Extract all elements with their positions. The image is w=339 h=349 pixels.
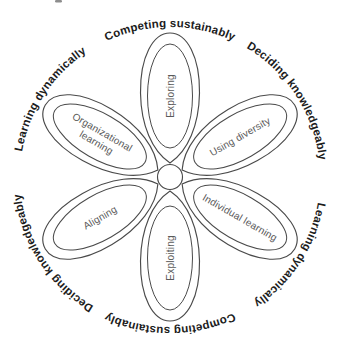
petal-label-aligning: Aligning [81, 203, 119, 231]
ring-label-competing-top: Competing sustainably [103, 17, 238, 43]
cropped-text-artifact [55, 0, 62, 2]
flower-diagram: Exploring Using diversity Individual lea… [0, 0, 339, 349]
petal-label-exploring: Exploring [165, 74, 176, 118]
ring-label-deciding-upper-right: Deciding knowledgeably [245, 39, 329, 161]
ring-label-learning-upper-left: Learning dynamically [12, 44, 88, 152]
flower-diagram-canvas: Exploring Using diversity Individual lea… [0, 0, 339, 349]
ring-label-learning-lower-right: Learning dynamically [252, 202, 328, 310]
ring-label-deciding-lower-left: Deciding knowledgeably [11, 193, 95, 315]
petal-label-exploiting: Exploiting [165, 235, 176, 280]
flower-center-circle [158, 165, 183, 190]
petal-label-using-diversity: Using diversity [208, 115, 272, 159]
ring-label-competing-bottom: Competing sustainably [102, 311, 237, 337]
